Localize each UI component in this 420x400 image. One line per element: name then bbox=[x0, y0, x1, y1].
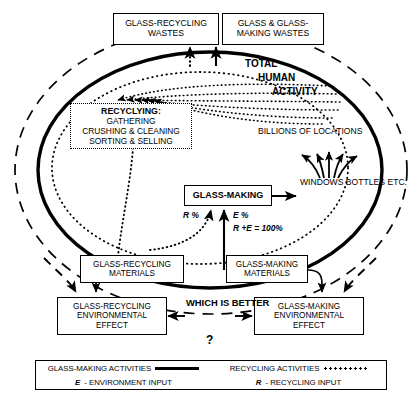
box-recycling-process[interactable]: RECYCLYING: GATHERING CRUSHING & CLEANIN… bbox=[70, 103, 192, 149]
legend-label: GLASS-MAKING ACTIVITIES bbox=[48, 364, 152, 373]
box-line: GLASS-RECYCLING bbox=[93, 260, 171, 269]
label-question-mark: ? bbox=[206, 333, 213, 347]
product-line: WINDOWS bbox=[300, 177, 343, 187]
solid-line-swatch-icon bbox=[155, 367, 199, 370]
label-total-human-activity-line3: ACTIVITY bbox=[272, 86, 318, 97]
label-which-is-better: WHICH IS BETTER bbox=[186, 297, 234, 308]
outer-dashed-boundary bbox=[15, 26, 407, 314]
legend-glassmaking-activities: GLASS-MAKING ACTIVITIES bbox=[36, 364, 211, 373]
product-line: BOTTLES bbox=[346, 177, 385, 187]
boundary-to-recycling-effect-arrow bbox=[44, 258, 76, 292]
box-line: MATERIALS bbox=[244, 269, 290, 278]
box-line: GLASS-MAKING bbox=[193, 190, 264, 200]
label-total-human-activity-line1: TOTAL bbox=[245, 58, 277, 69]
legend-symbol: R bbox=[256, 378, 262, 387]
box-line: GLASS-RECYCLING bbox=[73, 302, 151, 311]
box-glass-recycling-wastes[interactable]: GLASS-RECYCLING WASTES bbox=[113, 13, 219, 45]
legend-recycling-input: R - RECYCLING INPUT bbox=[211, 378, 386, 387]
box-line: GATHERING bbox=[106, 116, 155, 126]
box-glass-recycling-environmental-effect[interactable]: GLASS-RECYCLING ENVIRONMENTAL EFFECT bbox=[57, 297, 167, 335]
recycling-process-output-arrow bbox=[118, 148, 133, 256]
legend-label: - ENVIRONMENT INPUT bbox=[84, 378, 172, 387]
box-line: ENVIRONMENTAL bbox=[274, 311, 344, 320]
label-total-human-activity-line2: HUMAN bbox=[258, 72, 295, 83]
product-line: ETC. bbox=[387, 177, 407, 187]
box-glass-making-environmental-effect[interactable]: GLASS-MAKING ENVIRONMENTAL EFFECT bbox=[254, 297, 364, 335]
box-glass-making[interactable]: GLASS-MAKING bbox=[184, 185, 272, 206]
legend-environment-input: E - ENVIRONMENT INPUT bbox=[36, 378, 211, 387]
box-line: WASTES bbox=[148, 29, 184, 39]
box-line: ENVIRONMENTAL bbox=[77, 311, 147, 320]
product-arrow-4 bbox=[334, 154, 343, 178]
box-line: CRUSHING & CLEANING bbox=[82, 126, 180, 136]
box-line: MATERIALS bbox=[109, 269, 155, 278]
which-line: WHICH bbox=[186, 297, 218, 308]
legend-row-activities: GLASS-MAKING ACTIVITIES RECYCLING ACTIVI… bbox=[36, 361, 386, 375]
label-products: WINDOWS BOTTLES ETC. bbox=[300, 178, 407, 188]
which-line: BETTER bbox=[232, 297, 270, 308]
box-line: RECYCLYING: bbox=[101, 106, 161, 117]
box-glass-making-materials[interactable]: GLASS-MAKING MATERIALS bbox=[226, 255, 308, 283]
recycling-input-arrow bbox=[150, 210, 211, 250]
box-line: SORTING & SELLING bbox=[89, 136, 173, 146]
human-activity-boundary bbox=[38, 52, 382, 288]
dotted-line-swatch-icon bbox=[323, 367, 367, 370]
legend-recycling-activities: RECYCLING ACTIVITIES bbox=[211, 364, 386, 373]
box-line: MAKING WASTES bbox=[237, 29, 309, 39]
box-glass-and-glassmaking-wastes[interactable]: GLASS & GLASS- MAKING WASTES bbox=[222, 13, 324, 45]
box-glass-recycling-materials[interactable]: GLASS-RECYCLING MATERIALS bbox=[80, 255, 184, 283]
legend-row-inputs: E - ENVIRONMENT INPUT R - RECYCLING INPU… bbox=[36, 375, 386, 389]
label-billions-of-locations: BILLIONS OF LOCATIONS bbox=[258, 126, 362, 136]
which-line: IS bbox=[220, 297, 229, 308]
collection-arrow-3 bbox=[135, 100, 340, 102]
box-line: EFFECT bbox=[96, 321, 128, 330]
diagram-canvas: GLASS-RECYCLING WASTES GLASS & GLASS- MA… bbox=[0, 0, 420, 400]
label-r-percent: R % bbox=[183, 210, 199, 220]
box-line: GLASS-MAKING bbox=[278, 302, 340, 311]
legend-symbol: E bbox=[75, 378, 80, 387]
product-arrow-1 bbox=[302, 155, 320, 178]
legend-label: - RECYCLING INPUT bbox=[265, 378, 341, 387]
label-sum-equation: R +E = 100% bbox=[233, 223, 283, 233]
glassmaking-materials-to-effect bbox=[308, 270, 322, 292]
box-line: GLASS-MAKING bbox=[236, 260, 298, 269]
label-e-percent: E % bbox=[233, 210, 248, 220]
box-line: EFFECT bbox=[293, 321, 325, 330]
legend: GLASS-MAKING ACTIVITIES RECYCLING ACTIVI… bbox=[35, 360, 387, 390]
legend-label: RECYCLING ACTIVITIES bbox=[230, 364, 320, 373]
boundary-to-glassmaking-effect-arrow bbox=[344, 258, 376, 292]
